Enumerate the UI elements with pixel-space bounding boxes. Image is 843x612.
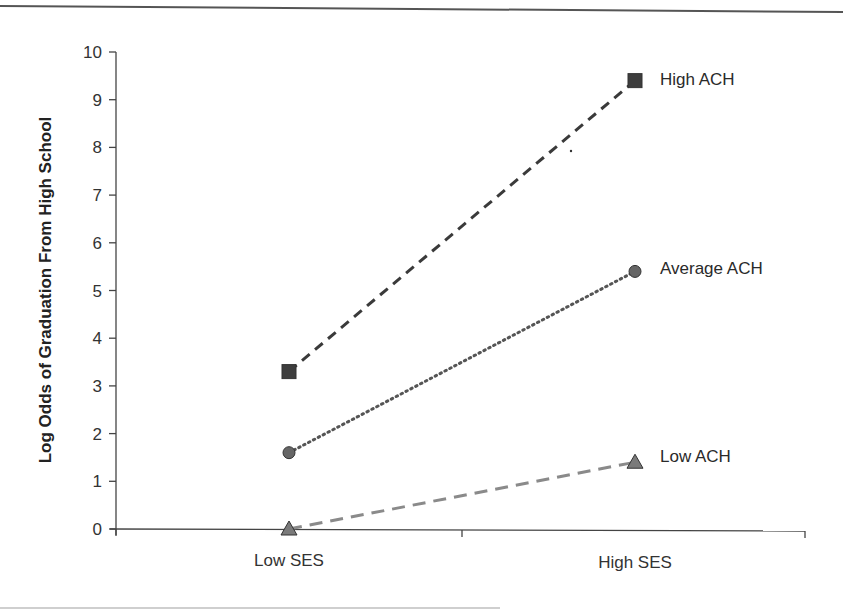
y-tick-label: 3: [93, 377, 102, 396]
x-axis: Low SES High SES: [110, 529, 805, 572]
x-tick-label-low-ses: Low SES: [254, 551, 324, 570]
series-high-ach: [282, 74, 642, 379]
y-tick-label: 1: [93, 472, 102, 491]
y-tick-label: 10: [83, 43, 102, 62]
scan-artifact: [570, 150, 572, 152]
y-tick-label: 6: [93, 234, 102, 253]
series-layer: [281, 74, 643, 535]
line-chart: 012345678910 Low SES High SES Log Odds o…: [0, 0, 843, 612]
y-tick-label: 4: [93, 329, 102, 348]
series-low-ach: [281, 454, 643, 535]
y-tick-label: 0: [93, 520, 102, 539]
y-tick-label: 2: [93, 425, 102, 444]
series-label-high-ach: High ACH: [660, 70, 735, 89]
series-label-average-ach: Average ACH: [660, 259, 763, 278]
series-label-low-ach: Low ACH: [660, 447, 731, 466]
y-axis-title: Log Odds of Graduation From High School: [36, 117, 55, 464]
y-tick-label: 5: [93, 282, 102, 301]
square-marker: [628, 74, 642, 88]
x-tick-label-high-ses: High SES: [598, 553, 672, 572]
y-tick-label: 8: [93, 138, 102, 157]
top-border: [0, 6, 843, 12]
circle-marker: [283, 447, 295, 459]
triangle-marker: [627, 454, 643, 468]
y-tick-label: 9: [93, 91, 102, 110]
circle-marker: [629, 265, 641, 277]
y-tick-label: 7: [93, 186, 102, 205]
square-marker: [282, 365, 296, 379]
y-axis: 012345678910: [83, 43, 116, 539]
series-average-ach: [283, 265, 641, 458]
